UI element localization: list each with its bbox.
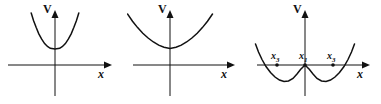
- x-axis-arrowhead-icon: [227, 62, 235, 69]
- x-axis-arrowhead-icon: [362, 62, 370, 69]
- v-axis-label: V: [293, 2, 302, 16]
- x-axis-label: x: [356, 67, 363, 81]
- panel-double-well: x3 x1 x3 V x: [254, 0, 381, 104]
- v-axis-label: V: [43, 2, 52, 16]
- x-axis-label: x: [220, 67, 227, 81]
- marker-dot-center: [303, 63, 307, 67]
- v-axis-arrowhead-icon: [302, 10, 309, 18]
- panel-narrow-well-svg: V x: [0, 0, 127, 104]
- marker-dot-right: [331, 63, 335, 67]
- point-label-left: x3: [270, 50, 280, 64]
- panel-wide-well-svg: V x: [127, 0, 254, 104]
- panel-double-well-svg: x3 x1 x3 V x: [254, 0, 381, 104]
- potential-energy-diagram-figure: V x V x x3: [0, 0, 381, 104]
- x-axis-arrowhead-icon: [104, 62, 112, 69]
- x-axis-label: x: [97, 67, 104, 81]
- v-axis-arrowhead-icon: [167, 10, 174, 18]
- v-axis-label: V: [158, 2, 167, 16]
- point-label-center: x1: [298, 50, 308, 64]
- marker-dot-left: [275, 63, 279, 67]
- v-axis-arrowhead-icon: [52, 10, 59, 18]
- panel-wide-well: V x: [127, 0, 254, 104]
- point-label-right: x3: [326, 50, 336, 64]
- panel-narrow-well: V x: [0, 0, 127, 104]
